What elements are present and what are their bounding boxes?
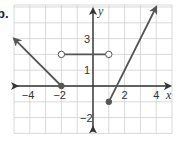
left-ray: [14, 39, 61, 86]
x-axis-label: x: [165, 88, 172, 102]
y-axis-label: y: [97, 4, 104, 18]
open-circle: [106, 51, 112, 57]
x-tick-label: −2: [53, 89, 66, 101]
tick-labels: −4−22431−2: [22, 33, 160, 124]
closed-dot: [106, 99, 112, 105]
open-circle: [58, 51, 64, 57]
x-tick-label: 2: [122, 89, 128, 101]
y-tick-label: −2: [80, 112, 93, 124]
y-tick-label: 3: [84, 33, 90, 45]
y-tick-label: 1: [84, 64, 90, 76]
x-tick-label: −4: [22, 89, 35, 101]
piecewise-graph: −4−22431−2 x y: [0, 0, 183, 145]
closed-dot: [59, 83, 65, 89]
curves: [14, 7, 156, 105]
x-tick-label: 4: [153, 89, 159, 101]
